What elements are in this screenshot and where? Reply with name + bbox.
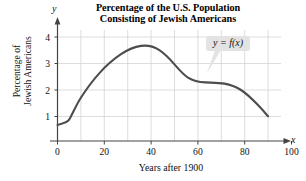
y-axis <box>55 17 61 141</box>
function-label-callout: y = f(x) <box>206 36 250 51</box>
x-tick-label-40: 40 <box>138 146 164 157</box>
x-axis-caption: Years after 1900 <box>57 162 285 173</box>
x-tick-label-80: 80 <box>232 146 258 157</box>
x-tick-label-20: 20 <box>91 146 117 157</box>
callout-pointer <box>207 49 222 74</box>
x-tick-label-60: 60 <box>185 146 211 157</box>
y-axis-caption: Percentage of Jewish Americans <box>11 23 33 119</box>
x-axis-variable: x <box>291 134 295 145</box>
y-tick-label-3: 3 <box>36 58 50 69</box>
y-axis-caption-line-1: Percentage of <box>11 23 22 119</box>
chart-figure: Percentage of the U.S. Population Consis… <box>0 0 306 181</box>
x-tick-label-100: 100 <box>279 146 305 157</box>
y-axis-caption-line-2: Jewish Americans <box>22 23 33 119</box>
y-tick-label-2: 2 <box>36 85 50 96</box>
y-axis-variable: y <box>52 3 56 14</box>
data-curve <box>58 46 269 125</box>
x-tick-label-0: 0 <box>45 146 71 157</box>
y-tick-label-1: 1 <box>36 111 50 122</box>
x-axis <box>50 138 291 144</box>
y-tick-label-4: 4 <box>36 32 50 43</box>
